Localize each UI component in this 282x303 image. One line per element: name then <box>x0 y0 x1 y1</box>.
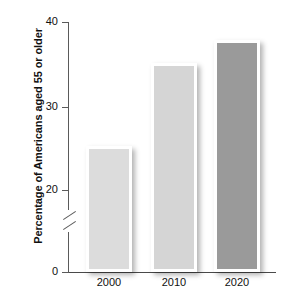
y-tick-label-40: 40 <box>18 16 58 27</box>
plot-area: 40 30 20 0 2000 2010 2020 <box>0 0 282 303</box>
x-tick-label-2000: 2000 <box>80 276 138 288</box>
bar-fill-2010 <box>151 63 197 272</box>
x-tick-label-2010: 2010 <box>145 276 203 288</box>
x-tick-label-2020: 2020 <box>208 276 266 288</box>
y-tick-label-30: 30 <box>18 101 58 112</box>
bar-2020[interactable] <box>214 40 260 272</box>
bar-group: 2000 2010 2020 <box>68 0 276 303</box>
bar-fill-2020 <box>214 40 260 272</box>
y-tick-label-20: 20 <box>18 184 58 195</box>
bar-2000[interactable] <box>86 146 132 272</box>
bar-2010[interactable] <box>151 63 197 272</box>
bar-fill-2000 <box>86 146 132 272</box>
y-tick-label-0: 0 <box>18 266 58 277</box>
bar-chart: Percentage of Americans aged 55 or older… <box>0 0 282 303</box>
